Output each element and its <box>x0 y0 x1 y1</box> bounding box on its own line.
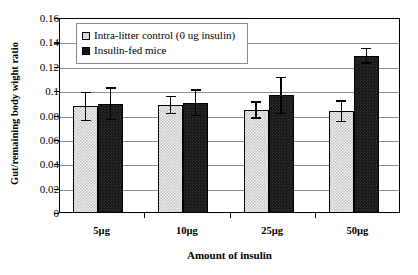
x-tick-mark <box>315 213 316 218</box>
bar-control <box>244 110 269 213</box>
legend-label-treated: Insulin-fed mice <box>94 45 166 56</box>
error-bar <box>85 92 86 121</box>
error-bar <box>255 101 256 118</box>
y-tick-label: 0.14 <box>7 37 59 48</box>
x-tick-label: 5µg <box>67 225 137 236</box>
error-bar <box>366 48 367 64</box>
chart-legend: Intra-litter control (0 ug insulin) Insu… <box>76 23 248 64</box>
error-bar-cap <box>336 121 346 122</box>
bar-control <box>73 106 98 213</box>
x-tick-mark <box>230 213 231 218</box>
y-tick-mark <box>54 213 59 214</box>
y-tick-label: 0.02 <box>7 183 59 194</box>
x-tick-mark <box>144 213 145 218</box>
error-bar-cap <box>336 100 346 101</box>
error-bar <box>195 89 196 116</box>
y-tick-label: 0 <box>7 208 59 219</box>
x-tick-label: 50µg <box>322 225 392 236</box>
error-bar-cap <box>191 115 201 116</box>
error-bar <box>341 100 342 122</box>
bar-group <box>315 18 400 213</box>
error-bar-cap <box>106 119 116 120</box>
legend-item-treated: Insulin-fed mice <box>82 43 242 58</box>
error-bar-cap <box>166 113 176 114</box>
y-axis-ticks: 00.020.040.060.080.10.120.140.16 <box>0 0 59 275</box>
error-bar-cap <box>251 101 261 102</box>
x-axis-title: Amount of insulin <box>59 249 400 261</box>
bar-treated <box>183 103 208 213</box>
error-bar-cap <box>106 87 116 88</box>
error-bar-cap <box>361 48 371 49</box>
y-tick-label: 0.08 <box>7 110 59 121</box>
y-tick-label: 0.12 <box>7 61 59 72</box>
bar-chart: Gut/remaining body wight ratio 00.020.04… <box>0 0 418 275</box>
error-bar-cap <box>166 96 176 97</box>
legend-item-control: Intra-litter control (0 ug insulin) <box>82 28 242 43</box>
error-bar <box>280 77 281 115</box>
y-tick-label: 0.04 <box>7 159 59 170</box>
error-bar-cap <box>251 117 261 118</box>
bar-control <box>158 105 183 213</box>
y-tick-label: 0.1 <box>7 86 59 97</box>
bar-control <box>329 111 354 213</box>
y-tick-label: 0.16 <box>7 13 59 24</box>
y-tick-label: 0.06 <box>7 134 59 145</box>
legend-swatch-control-icon <box>82 32 90 40</box>
bar-treated <box>354 56 379 213</box>
error-bar-cap <box>361 62 371 63</box>
error-bar-cap <box>81 120 91 121</box>
error-bar-cap <box>276 77 286 78</box>
error-bar <box>110 87 111 120</box>
error-bar-cap <box>276 113 286 114</box>
x-tick-label: 25µg <box>237 225 307 236</box>
error-bar-cap <box>81 92 91 93</box>
x-tick-label: 10µg <box>152 225 222 236</box>
legend-label-control: Intra-litter control (0 ug insulin) <box>94 30 235 41</box>
legend-swatch-treated-icon <box>82 47 90 55</box>
error-bar <box>170 96 171 114</box>
error-bar-cap <box>191 89 201 90</box>
